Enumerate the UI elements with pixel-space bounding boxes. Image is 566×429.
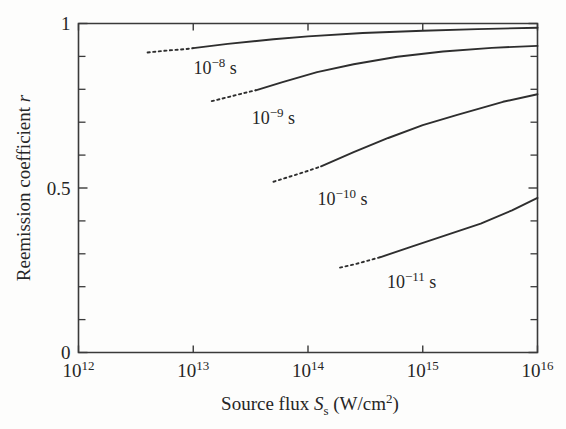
x-axis-title: Source flux Ss (W/cm2) (221, 391, 399, 418)
plot-box (79, 24, 538, 353)
y-tick-label: 0.5 (47, 178, 71, 199)
series-label-2: 10−10 s (318, 186, 368, 209)
curve-solid-segment-0 (193, 28, 537, 48)
y-axis-title: Reemission coefficient r (13, 94, 34, 281)
y-tick-label: 0 (61, 342, 71, 363)
curve-dashed-segment-3 (340, 257, 381, 268)
series-annotations: 10−8 s10−9 s10−10 s10−11 s (193, 55, 436, 291)
curve-solid-segment-3 (381, 198, 538, 257)
figure-container: 10121013101410151016 00.51 10−8 s10−9 s1… (0, 0, 566, 429)
curve-dashed-segment-2 (273, 166, 321, 181)
curve-dashed-segment-1 (212, 90, 256, 101)
curve-dashed-segment-0 (148, 48, 194, 52)
x-tick-label: 1014 (292, 358, 325, 381)
x-tick-label: 1013 (177, 358, 209, 381)
y-axis-ticks (79, 24, 538, 353)
y-tick-label: 1 (61, 13, 71, 34)
x-axis-tick-labels: 10121013101410151016 (63, 358, 555, 381)
y-axis-tick-labels: 00.51 (47, 13, 71, 363)
curve-solid-segment-1 (256, 46, 538, 90)
curve-solid-segment-2 (321, 94, 537, 166)
series-label-3: 10−11 s (387, 269, 436, 292)
x-tick-label: 1015 (407, 358, 439, 381)
x-axis-ticks (79, 24, 538, 353)
x-tick-label: 1016 (522, 358, 555, 381)
plot-frame (79, 24, 538, 353)
series-label-1: 10−9 s (252, 105, 295, 128)
reemission-coefficient-chart: 10121013101410151016 00.51 10−8 s10−9 s1… (0, 0, 566, 429)
series-label-0: 10−8 s (193, 55, 236, 78)
